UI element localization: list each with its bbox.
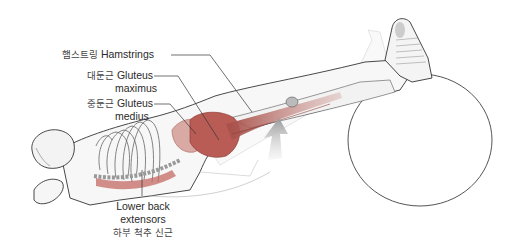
label-gluteus-maximus-en: Gluteus [117,69,153,81]
label-gluteus-maximus: 대둔근 Gluteus maximus [87,69,157,95]
label-gluteus-medius-ko: 중둔근 [87,98,114,109]
label-gluteus-maximus-en2: maximus [87,82,157,94]
hand [34,179,63,204]
exercise-illustration [0,0,520,246]
label-hamstrings-en: Hamstrings [101,48,154,60]
label-hamstrings-ko: 햄스트링 [62,49,98,60]
label-lower-back-en: Lower back [116,200,170,212]
label-gluteus-maximus-ko: 대둔근 [87,70,114,81]
label-gluteus-medius: 중둔근 Gluteus medius [87,97,153,123]
label-hamstrings: 햄스트링 Hamstrings [62,48,154,61]
label-lower-back-en2: extensors [120,213,166,225]
head [32,130,75,169]
label-lower-back-extensors: Lower back extensors 하부 척추 신근 [108,200,178,239]
label-lower-back-ko: 하부 척추 신근 [113,227,172,238]
label-gluteus-medius-en: Gluteus [117,97,153,109]
label-gluteus-medius-en2: medius [87,110,149,122]
